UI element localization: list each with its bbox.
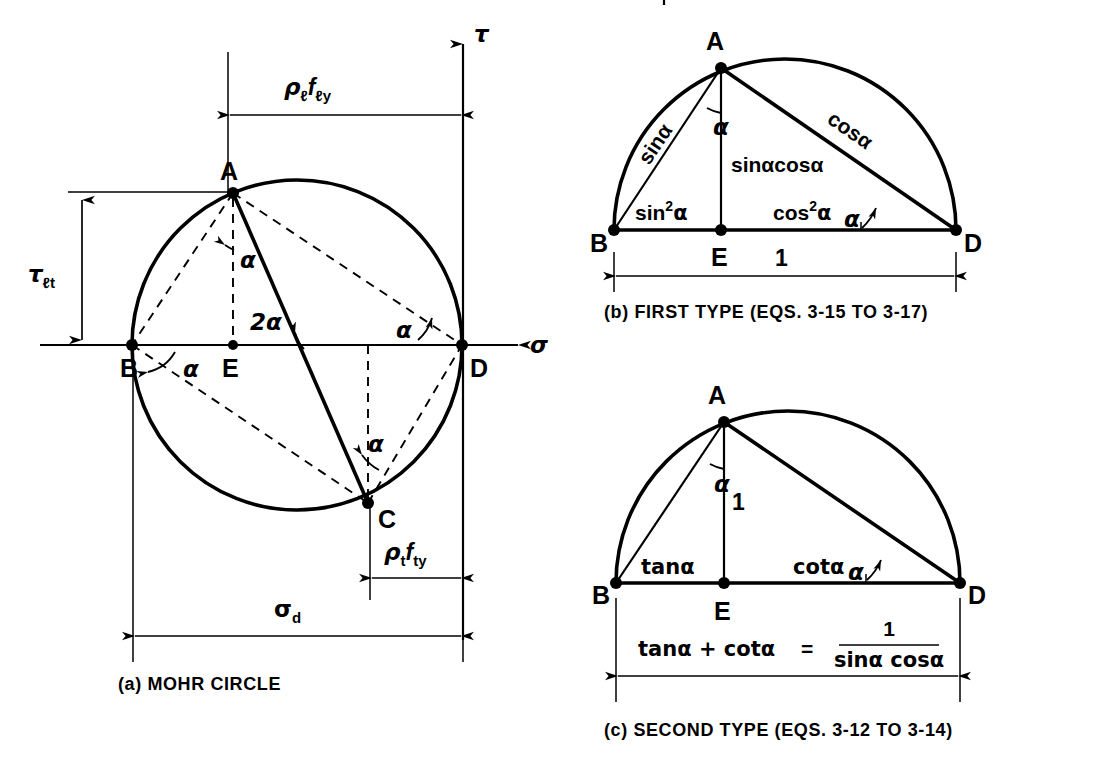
identity-equals: = (801, 637, 813, 660)
f-subscript: ℓy (315, 87, 331, 104)
leg-A-D (721, 68, 956, 230)
point-label-C: C (378, 505, 396, 533)
edge-label-sin-squared: sin2α (635, 198, 688, 225)
edge-label-cos-squared: cos2α (773, 198, 831, 225)
sigma-axis-label: σ (530, 332, 548, 358)
angle-marker-center: 2α (250, 309, 304, 349)
point-A-dot (227, 187, 239, 199)
point-label-A: A (220, 157, 238, 185)
point-label-E: E (711, 243, 728, 271)
dimension-sigma-d: σd (133, 345, 463, 662)
edge-label-one: 1 (732, 489, 745, 515)
angle-marker-at-A: α (225, 245, 256, 273)
point-E-dot (228, 340, 238, 350)
chord-C-D (368, 345, 462, 503)
point-B-dot (610, 577, 622, 589)
point-D-dot (954, 577, 966, 589)
angle-marker-at-B: α (148, 352, 199, 382)
edge-label-tan-alpha: tanα (641, 555, 695, 579)
angle-marker-at-A: α (707, 108, 729, 140)
point-E-dot (715, 224, 727, 236)
point-D-dot (456, 339, 468, 351)
angle-marker-at-C: α (362, 431, 384, 470)
panel-first-type: A B D E α α sinα cosα sinαcosα s (556, 0, 1096, 330)
point-A-dot (715, 62, 727, 74)
edge-label-sin-cos: sinαcosα (731, 153, 823, 176)
rho-symbol: ρ (284, 74, 301, 100)
angle-label-center: 2α (250, 309, 282, 335)
angle-label-A: α (714, 471, 730, 497)
point-label-A: A (708, 381, 726, 409)
angle-label-B: α (183, 356, 199, 382)
dimension-unit-span: 1 (614, 245, 956, 292)
chord-A-C (233, 193, 368, 503)
second-type-drawing: A B D E α α 1 tanα cotα (556, 330, 1096, 781)
point-label-E: E (714, 597, 731, 625)
sigma-symbol: σ (274, 596, 292, 622)
point-label-B: B (120, 354, 138, 382)
point-label-E: E (222, 354, 239, 382)
panel-mohr-circle: σ τ (0, 0, 560, 781)
angle-label-D: α (848, 559, 864, 585)
point-B-dot (126, 339, 138, 351)
angle-label-C: α (368, 431, 384, 457)
dimension-label-rho-t-fty: ρtfty (384, 539, 427, 569)
point-D-dot (950, 224, 962, 236)
point-B-dot (608, 224, 620, 236)
rho-subscript: ℓ (300, 87, 307, 104)
tau-axis-label: τ (474, 21, 490, 47)
mohr-circle-drawing: σ τ (0, 0, 560, 781)
identity-lhs: tanα + cotα (638, 637, 775, 661)
angle-marker-at-D: α (844, 206, 876, 232)
chord-A-B (132, 193, 233, 345)
angle-label-D: α (844, 206, 860, 232)
dimension-tau-lt: τℓt (28, 192, 232, 340)
rho-symbol: ρ (384, 539, 401, 565)
identity-numerator: 1 (883, 617, 895, 640)
dimension-label-tau-lt: τℓt (28, 261, 55, 291)
angle-label-D: α (396, 317, 412, 343)
tau-axis: τ (463, 21, 490, 640)
tau-subscript: ℓt (43, 274, 55, 291)
angle-marker-at-D: α (848, 559, 881, 585)
point-C-dot (362, 497, 374, 509)
point-label-B: B (590, 229, 608, 257)
point-A-dot (718, 416, 730, 428)
angle-label-A: α (240, 247, 256, 273)
dimension-label-rho-l-fly: ρℓfℓy (284, 74, 332, 104)
identity-denominator: sinα cosα (834, 648, 944, 672)
tau-symbol: τ (28, 261, 44, 287)
point-label-D: D (964, 229, 982, 257)
angle-marker-at-A: α (710, 464, 730, 497)
dimension-identity: tanα + cotα = 1 sinα cosα (616, 598, 960, 702)
point-label-A: A (706, 27, 724, 55)
edge-label-cot-alpha: cotα (793, 555, 844, 579)
point-label-B: B (592, 581, 610, 609)
dimension-label-unit: 1 (775, 245, 788, 271)
panel-b-caption: (b) FIRST TYPE (EQS. 3-15 TO 3-17) (604, 302, 928, 322)
figure-root: σ τ (0, 0, 1096, 781)
point-E-dot (718, 577, 730, 589)
first-type-drawing: A B D E α α sinα cosα sinαcosα s (556, 0, 1096, 330)
sigma-subscript: d (292, 609, 301, 626)
panel-c-caption: (c) SECOND TYPE (EQS. 3-12 TO 3-14) (604, 720, 953, 740)
angle-label-A: α (713, 114, 729, 140)
dimension-label-sigma-d: σd (274, 596, 301, 626)
panel-second-type: A B D E α α 1 tanα cotα (556, 330, 1096, 781)
point-label-D: D (470, 354, 488, 382)
point-label-D: D (968, 581, 986, 609)
panel-a-caption: (a) MOHR CIRCLE (118, 674, 281, 694)
dimension-rho-l-fly: ρℓfℓy (228, 52, 461, 196)
f-subscript: ty (413, 552, 427, 569)
